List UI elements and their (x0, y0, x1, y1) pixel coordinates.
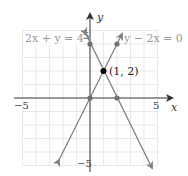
intersection-point (101, 68, 107, 74)
x-axis-label: x (171, 101, 178, 114)
y-tick-min: −5 (77, 158, 92, 169)
point-0-4 (87, 41, 92, 46)
line-2x-plus-y-eq-4 (86, 34, 152, 168)
y-axis-label: y (96, 11, 104, 24)
point-2-0 (114, 95, 119, 100)
x-tick-min: −5 (14, 100, 29, 111)
line1-label: 2x + y = 4 (25, 32, 84, 45)
coordinate-plane: x y −5 5 5 −5 2x + y = 4 y − 2x = 0 (1, … (0, 0, 188, 176)
intersection-label: (1, 2) (109, 65, 139, 78)
x-tick-max: 5 (153, 100, 159, 111)
point-2-4 (114, 41, 119, 46)
line2-label: y − 2x = 0 (123, 32, 183, 45)
point-0-0 (87, 95, 92, 100)
